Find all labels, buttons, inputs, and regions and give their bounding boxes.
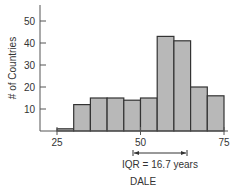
histogram-bar [107, 98, 124, 131]
y-tick-label: 30 [24, 60, 36, 71]
iqr-annotation: IQR = 16.7 years [122, 150, 198, 170]
x-tick-label: 75 [218, 137, 230, 148]
x-tick-label: 50 [135, 137, 147, 148]
y-tick-label: 10 [24, 104, 36, 115]
histogram-bar [207, 96, 224, 131]
histogram-bars [57, 36, 224, 131]
y-axis-label: # of Countries [7, 37, 18, 99]
x-tick-label: 25 [51, 137, 63, 148]
y-tick-label: 50 [24, 16, 36, 27]
x-axis-label: DALE [130, 176, 156, 187]
histogram-bar [157, 36, 174, 131]
histogram-chart: 1020304050 255075 # of Countries IQR = 1… [0, 0, 248, 193]
histogram-bar [124, 100, 141, 131]
arrow-right-icon [181, 151, 186, 155]
histogram-bar [90, 98, 107, 131]
y-ticks: 1020304050 [24, 16, 46, 115]
histogram-bar [141, 98, 158, 131]
iqr-label: IQR = 16.7 years [122, 159, 198, 170]
y-tick-label: 20 [24, 82, 36, 93]
histogram-bar [174, 41, 191, 131]
y-tick-label: 40 [24, 38, 36, 49]
histogram-bar [74, 105, 91, 131]
arrow-left-icon [134, 151, 139, 155]
histogram-bar [191, 87, 208, 131]
